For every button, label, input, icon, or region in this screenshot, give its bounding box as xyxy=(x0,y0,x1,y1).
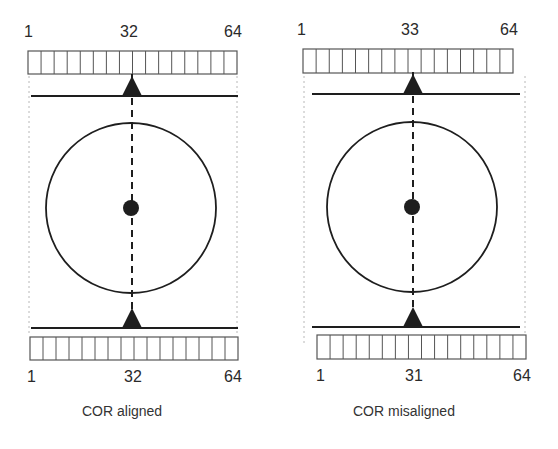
top-label-center: 33 xyxy=(401,22,419,38)
bottom-label-start: 1 xyxy=(27,369,36,385)
diagram-canvas xyxy=(0,0,558,449)
cor-alignment-diagram: 1 32 64 1 32 64 COR aligned 1 33 64 1 31… xyxy=(0,0,558,449)
top-label-end: 64 xyxy=(500,22,518,38)
panel-caption: COR misaligned xyxy=(353,404,455,418)
bottom-label-end: 64 xyxy=(513,368,531,384)
bottom-label-center: 32 xyxy=(124,369,142,385)
center-of-rotation-dot xyxy=(123,200,139,216)
bottom-marker-triangle-icon xyxy=(122,308,142,328)
top-label-end: 64 xyxy=(224,24,242,40)
bottom-label-start: 1 xyxy=(316,368,325,384)
top-label-center: 32 xyxy=(120,24,138,40)
top-label-start: 1 xyxy=(297,22,306,38)
bottom-label-end: 64 xyxy=(224,369,242,385)
center-of-rotation-dot xyxy=(404,199,420,215)
bottom-marker-triangle-icon xyxy=(403,307,423,327)
top-label-start: 1 xyxy=(24,24,33,40)
bottom-label-center: 31 xyxy=(405,368,423,384)
panel-caption: COR aligned xyxy=(82,404,162,418)
